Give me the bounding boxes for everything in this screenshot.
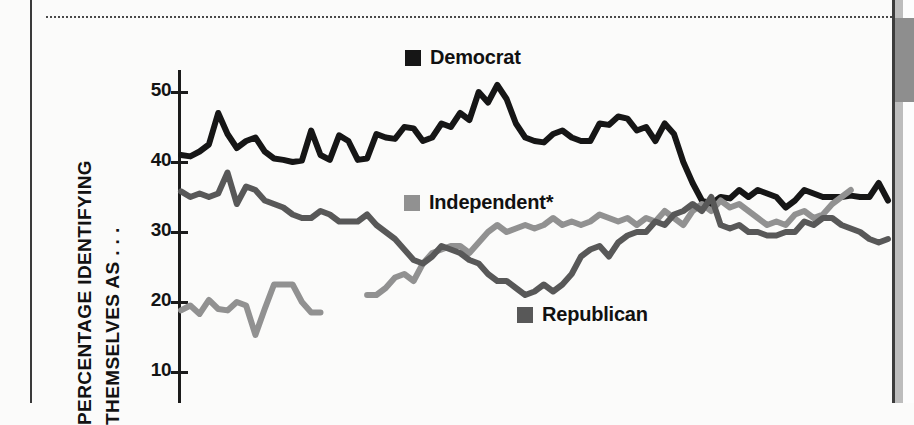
- legend-swatch-independent: [404, 195, 420, 211]
- legend-item-republican: Republican: [517, 303, 648, 326]
- legend-item-democrat: Democrat: [405, 46, 521, 69]
- series-line-independent-segment-1: [181, 285, 321, 335]
- legend-swatch-republican: [517, 307, 533, 323]
- page-side-tab: [895, 18, 914, 102]
- legend-swatch-democrat: [405, 50, 421, 66]
- series-line-democrat: [181, 85, 888, 208]
- legend-label-independent: Independent*: [429, 191, 553, 214]
- legend-label-republican: Republican: [542, 303, 648, 326]
- legend-item-independent: Independent*: [404, 191, 553, 214]
- legend-label-democrat: Democrat: [430, 46, 521, 69]
